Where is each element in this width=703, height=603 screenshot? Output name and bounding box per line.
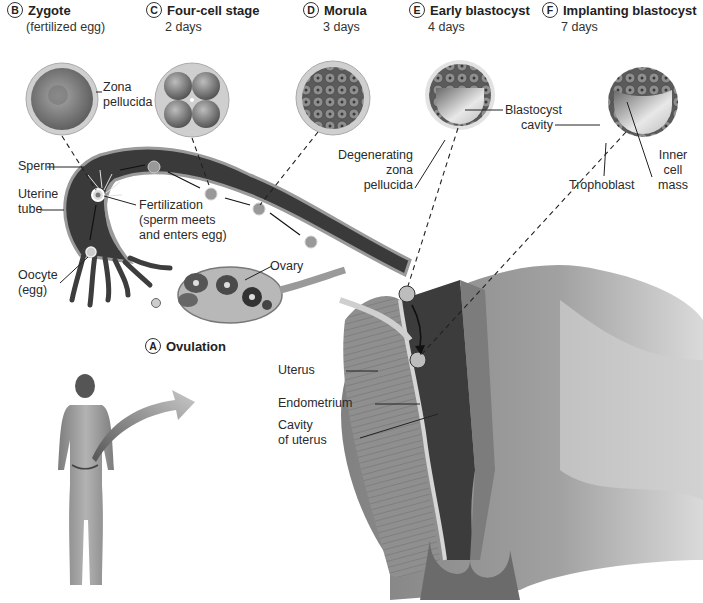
label-uterus: Uterus <box>278 363 315 378</box>
stage-letter-badge: C <box>146 2 162 18</box>
label-line: Zona <box>103 80 152 95</box>
label-line: mass <box>655 178 691 193</box>
label-line: (sperm meets <box>139 213 227 228</box>
stage-e-subtitle: 4 days <box>428 20 465 34</box>
stage-d-title: DMorula <box>303 2 367 18</box>
label-line: and enters egg) <box>139 228 227 243</box>
stage-b-title: BZygote <box>7 2 71 18</box>
label-line: Uterine <box>18 187 58 202</box>
stage-d-name: Morula <box>324 3 367 18</box>
label-line: of uterus <box>278 433 327 448</box>
label-line: cell <box>655 163 691 178</box>
stage-a-title: AOvulation <box>145 338 226 354</box>
human-figure <box>58 374 114 585</box>
label-uterine-tube: Uterine tube <box>18 187 58 217</box>
label-zona-pellucida: Zona pellucida <box>103 80 152 110</box>
stage-f-name: Implanting blastocyst <box>563 3 697 18</box>
ovary <box>152 267 346 323</box>
label-line: zona <box>337 163 413 178</box>
label-line: Fertilization <box>139 198 227 213</box>
label-sperm: Sperm <box>18 159 55 174</box>
label-oocyte: Oocyte (egg) <box>18 268 58 298</box>
label-line: tube <box>18 202 58 217</box>
label-ovary: Ovary <box>270 259 303 274</box>
label-line: Blastocyst <box>505 103 562 118</box>
label-fertilization: Fertilization (sperm meets and enters eg… <box>139 198 227 243</box>
stage-c-subtitle: 2 days <box>165 20 202 34</box>
stage-b-name: Zygote <box>28 3 71 18</box>
label-line: Degenerating <box>337 148 413 163</box>
morula-cell <box>296 61 370 135</box>
stage-c-title: CFour-cell stage <box>146 2 259 18</box>
implanting-blastocyst-cell <box>608 67 678 137</box>
stage-b-subtitle: (fertilized egg) <box>26 20 105 34</box>
stage-e-title: EEarly blastocyst <box>409 2 530 18</box>
stage-letter-badge: A <box>145 338 161 354</box>
label-trophoblast: Trophoblast <box>569 178 635 193</box>
uterus-illustration <box>340 265 703 600</box>
label-line: cavity <box>505 118 562 133</box>
stage-letter-badge: B <box>7 2 23 18</box>
stage-e-name: Early blastocyst <box>430 3 530 18</box>
label-cavity-of-uterus: Cavity of uterus <box>278 418 327 448</box>
diagram-canvas: BZygote (fertilized egg) CFour-cell stag… <box>0 0 703 603</box>
label-line: pellucida <box>337 178 413 193</box>
label-line: pellucida <box>103 95 152 110</box>
label-endometrium: Endometrium <box>278 396 352 411</box>
stage-a-name: Ovulation <box>166 339 226 354</box>
label-inner-cell-mass: Inner cell mass <box>655 148 691 193</box>
stage-f-subtitle: 7 days <box>561 20 598 34</box>
label-line: (egg) <box>18 283 58 298</box>
stage-d-subtitle: 3 days <box>323 20 360 34</box>
zygote-cell <box>26 63 98 135</box>
stage-c-name: Four-cell stage <box>167 3 259 18</box>
stage-letter-badge: F <box>542 2 558 18</box>
stage-letter-badge: E <box>409 2 425 18</box>
label-blastocyst-cavity: Blastocyst cavity <box>505 103 562 133</box>
stage-letter-badge: D <box>303 2 319 18</box>
label-degenerating-zona-pellucida: Degenerating zona pellucida <box>337 148 413 193</box>
four-cell-stage-cell <box>155 63 229 137</box>
stage-f-title: FImplanting blastocyst <box>542 2 697 18</box>
early-blastocyst-cell <box>425 60 495 130</box>
label-line: Oocyte <box>18 268 58 283</box>
label-line: Inner <box>655 148 691 163</box>
label-line: Cavity <box>278 418 327 433</box>
